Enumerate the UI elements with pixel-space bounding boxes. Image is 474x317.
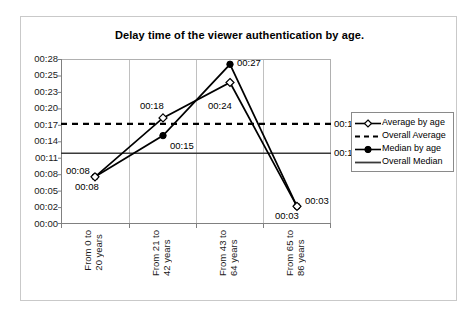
- legend-key-overall-average-icon: [354, 129, 382, 142]
- legend-label-overall-average: Overall Average: [382, 130, 446, 141]
- chart-legend: Average by age Overall Average Median by…: [351, 112, 454, 172]
- legend-label-average-by-age: Average by age: [382, 117, 445, 128]
- label-average-3: 00:03: [305, 196, 329, 206]
- legend-label-median-by-age: Median by age: [382, 143, 441, 154]
- label-median-1: 00:15: [170, 141, 194, 151]
- x-tick-1: From 21 to 42 years: [150, 230, 218, 276]
- legend-item-average-by-age: Average by age: [354, 116, 451, 129]
- x-tick-0: From 0 to 20 years: [82, 230, 150, 271]
- label-median-2: 00:27: [237, 58, 261, 68]
- label-average-2: 00:24: [208, 101, 232, 111]
- legend-item-overall-average: Overall Average: [354, 129, 451, 142]
- label-average-0: 00:08: [66, 166, 90, 176]
- legend-label-overall-median: Overall Median: [382, 156, 443, 167]
- label-average-1: 00:18: [140, 101, 164, 111]
- legend-key-overall-median-icon: [354, 155, 382, 168]
- label-median-0: 00:08: [75, 182, 99, 192]
- x-tick-2: From 43 to 64 years: [217, 230, 285, 276]
- legend-key-median-by-age-icon: [354, 142, 382, 155]
- legend-item-median-by-age: Median by age: [354, 142, 451, 155]
- x-tick-3: From 65 to 86 years: [284, 230, 352, 276]
- legend-key-average-by-age-icon: [354, 116, 382, 129]
- label-median-3: 00:03: [275, 211, 299, 221]
- legend-item-overall-median: Overall Median: [354, 155, 451, 168]
